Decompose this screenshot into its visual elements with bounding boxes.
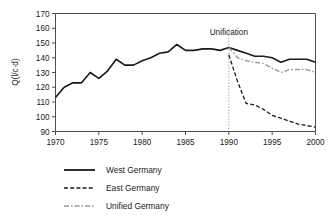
legend-label-unified-germany: Unified Germany (106, 201, 170, 211)
x-tick-label: 1975 (90, 138, 109, 147)
y-tick-label: 100 (36, 113, 50, 122)
y-tick-label: 160 (36, 24, 50, 33)
y-axis-title: Q(l/c·d) (11, 58, 20, 86)
annotation-group: Unification (210, 28, 249, 37)
y-tick-label: 140 (36, 54, 50, 63)
x-tick-label: 1980 (133, 138, 152, 147)
legend: West GermanyEast GermanyUnified Germany (64, 165, 170, 211)
y-tick-label: 170 (36, 10, 50, 19)
y-tick-label: 90 (40, 128, 50, 137)
y-tick-label: 110 (36, 98, 49, 107)
axes-frame (56, 14, 316, 132)
plot-border (56, 14, 316, 132)
series-lines (56, 44, 316, 127)
legend-label-east-germany: East Germany (106, 183, 160, 193)
y-tick-label: 120 (36, 83, 50, 92)
y-tick-label: 130 (36, 69, 50, 78)
y-tick-label: 150 (36, 39, 50, 48)
x-tick-label: 1970 (46, 138, 65, 147)
x-tick-label: 2000 (306, 138, 325, 147)
x-tick-label: 1990 (220, 138, 239, 147)
series-line-east-germany (229, 55, 316, 127)
chart-figure: Q(l/c·d) 90100110120130140150160170 1970… (0, 0, 332, 223)
legend-label-west-germany: West Germany (106, 165, 163, 175)
y-tick-labels: 90100110120130140150160170 (36, 10, 50, 137)
line-chart: Q(l/c·d) 90100110120130140150160170 1970… (0, 0, 332, 223)
x-tick-labels: 1970197519801985199019952000 (46, 138, 325, 147)
x-tick-label: 1995 (263, 138, 282, 147)
annotation-unification: Unification (210, 28, 249, 37)
x-tick-label: 1985 (176, 138, 195, 147)
y-axis-title-group: Q(l/c·d) (11, 58, 20, 86)
